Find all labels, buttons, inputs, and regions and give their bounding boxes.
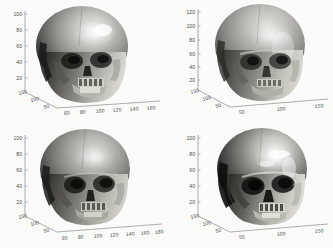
subplot-panel-bottom-right: 100 80 60 40 20 150 100 50 50 100 150 (167, 124, 333, 248)
x-tick-label: 80 (80, 109, 86, 115)
x-tick-label: 50 (239, 234, 245, 240)
z-tick-label: 100 (187, 23, 196, 29)
x-tick-label: 180 (155, 228, 164, 235)
y-ticks-top-right: 150 100 50 (190, 87, 222, 109)
x-tick-label: 150 (315, 102, 324, 109)
z-tick-label: 60 (16, 167, 22, 173)
y-tick-label: 150 (18, 88, 28, 96)
z-tick-label: 40 (16, 183, 22, 189)
y-ticks-top-left: 150 100 50 (18, 88, 50, 110)
axes-bottom-right: 100 80 60 40 20 150 100 50 50 100 150 (167, 124, 333, 248)
x-ticks-bottom-right: 50 100 150 (239, 227, 324, 240)
x-tick-label: 60 (64, 110, 70, 116)
axes-top-left: 100 80 60 40 20 150 100 50 60 80 100 120… (0, 0, 166, 124)
z-tick-label: 60 (189, 51, 195, 57)
y-tick-label: 150 (190, 87, 200, 95)
skull-isosurface-top-right (215, 4, 305, 101)
y-ticks-bottom-right: 150 100 50 (190, 212, 222, 234)
z-ticks-top-left: 100 80 60 40 20 (14, 11, 28, 81)
z-tick-label: 60 (189, 167, 195, 173)
z-tick-label: 20 (189, 199, 195, 205)
y-ticks-bottom-left: 150 100 50 (18, 212, 50, 234)
x-tick-label: 140 (130, 105, 139, 112)
y-tick-label: 100 (30, 95, 40, 103)
y-tick-label: 100 (30, 219, 40, 227)
z-tick-label: 20 (189, 77, 195, 83)
z-tick-label: 80 (16, 151, 22, 157)
subplot-panel-top-left: 100 80 60 40 20 150 100 50 60 80 100 120… (0, 0, 166, 124)
x-ticks-top-left: 60 80 100 120 140 160 (64, 104, 156, 116)
y-tick-label: 100 (202, 94, 212, 102)
y-tick-label: 150 (190, 212, 200, 220)
x-tick-label: 100 (94, 232, 103, 239)
x-tick-label: 80 (78, 234, 84, 240)
z-tick-label: 40 (189, 183, 195, 189)
z-tick-label: 100 (14, 135, 23, 141)
z-tick-label: 120 (187, 9, 196, 15)
x-tick-label: 60 (62, 235, 68, 241)
figure-canvas: 100 80 60 40 20 150 100 50 60 80 100 120… (0, 0, 333, 248)
z-tick-label: 60 (16, 43, 22, 49)
subplot-panel-top-right: 120 100 80 60 40 20 150 100 50 50 100 15… (167, 0, 333, 124)
x-tick-label: 100 (277, 105, 286, 112)
x-tick-label: 120 (113, 106, 122, 113)
z-tick-label: 40 (16, 59, 22, 65)
z-tick-label: 20 (16, 199, 22, 205)
z-tick-label: 80 (189, 151, 195, 157)
x-tick-label: 100 (96, 107, 105, 114)
z-tick-label: 40 (189, 64, 195, 70)
z-ticks-top-right: 120 100 80 60 40 20 (187, 9, 201, 83)
x-tick-label: 50 (239, 109, 245, 115)
y-tick-label: 100 (202, 219, 212, 227)
y-tick-label: 150 (18, 212, 28, 220)
x-tick-label: 150 (315, 227, 324, 234)
skull-isosurface-bottom-left (40, 129, 130, 225)
z-ticks-bottom-left: 100 80 60 40 20 (14, 135, 28, 205)
z-ticks-bottom-right: 100 80 60 40 20 (187, 135, 201, 205)
y-tick-label: 50 (215, 227, 222, 234)
axes-bottom-left: 100 80 60 40 20 150 100 50 60 80 100 120… (0, 124, 166, 248)
z-tick-label: 20 (16, 75, 22, 81)
subplot-panel-bottom-left: 100 80 60 40 20 150 100 50 60 80 100 120… (0, 124, 166, 248)
x-tick-label: 140 (126, 230, 135, 237)
axes-top-right: 120 100 80 60 40 20 150 100 50 50 100 15… (167, 0, 333, 124)
z-tick-label: 80 (189, 37, 195, 43)
z-tick-label: 100 (187, 135, 196, 141)
y-tick-label: 50 (215, 102, 222, 109)
x-ticks-top-right: 50 100 150 (239, 102, 324, 115)
x-tick-label: 120 (110, 231, 119, 238)
x-tick-label: 160 (147, 104, 156, 111)
z-tick-label: 100 (14, 11, 23, 17)
skull-isosurface-bottom-right (217, 128, 307, 225)
x-tick-label: 100 (277, 230, 286, 237)
skull-isosurface-top-left (36, 6, 128, 103)
x-tick-label: 160 (141, 229, 150, 236)
z-tick-label: 80 (16, 27, 22, 33)
